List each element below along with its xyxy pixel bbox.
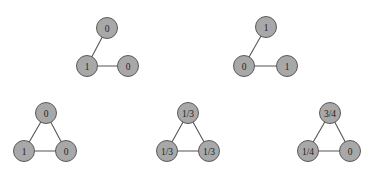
node-label: 0 [126, 62, 131, 72]
graph-node: 1 [14, 141, 35, 162]
node-label: 1 [22, 147, 27, 157]
graph-node: 1 [77, 56, 98, 77]
node-label: 0 [64, 147, 69, 157]
graph-node: 1/3 [157, 141, 178, 162]
graph-node: 1/4 [298, 141, 319, 162]
node-label: 0 [348, 147, 353, 157]
graph-node: 1 [256, 17, 277, 38]
node-label: 1/3 [203, 147, 215, 157]
graph-node: 3/4 [320, 103, 341, 124]
node-label: 0 [105, 24, 110, 34]
graph-node: 0 [36, 103, 57, 124]
node-label: 1 [285, 62, 290, 72]
graph-4: 1/31/31/3 [157, 103, 220, 162]
graph-node: 0 [234, 56, 255, 77]
graph-diagram-canvas: 0101010101/31/31/33/41/40 [0, 0, 375, 170]
node-label: 1 [85, 62, 90, 72]
graph-3: 010 [14, 103, 77, 162]
graph-node: 1/3 [178, 103, 199, 124]
graph-5: 3/41/40 [298, 103, 361, 162]
graph-1: 010 [77, 18, 139, 77]
graph-2: 101 [234, 17, 298, 77]
node-label: 3/4 [324, 109, 336, 119]
node-label: 0 [242, 62, 247, 72]
graph-node: 0 [340, 141, 361, 162]
node-label: 1 [264, 23, 269, 33]
graph-node: 1 [277, 56, 298, 77]
graph-node: 0 [118, 56, 139, 77]
graph-node: 0 [97, 18, 118, 39]
node-label: 1/3 [182, 109, 194, 119]
node-label: 1/4 [302, 147, 314, 157]
graph-node: 1/3 [199, 141, 220, 162]
graph-node: 0 [56, 141, 77, 162]
node-label: 1/3 [161, 147, 173, 157]
node-label: 0 [44, 109, 49, 119]
